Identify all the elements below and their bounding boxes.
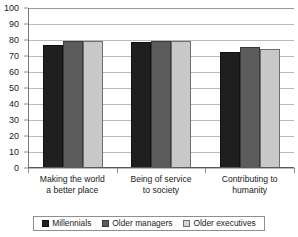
bar[interactable]	[151, 41, 171, 167]
legend-swatch-icon	[102, 220, 109, 227]
category-tick	[294, 168, 295, 173]
y-tick-label: 80	[9, 36, 19, 45]
bars-layer	[29, 8, 294, 167]
bar-group	[117, 8, 205, 167]
y-tick-label: 10	[9, 148, 19, 157]
legend-label: Millennials	[52, 219, 91, 228]
legend-label: Older managers	[112, 219, 172, 228]
bar-group	[206, 8, 294, 167]
category-tick	[117, 168, 118, 173]
y-tick-label: 20	[9, 132, 19, 141]
x-category-label-line: to society	[118, 185, 205, 196]
chart-legend: MillennialsOlder managersOlder executive…	[33, 216, 265, 231]
legend-item[interactable]: Older managers	[102, 219, 172, 228]
y-tick-label: 40	[9, 100, 19, 109]
legend-item[interactable]: Older executives	[183, 219, 255, 228]
y-tick-label: 50	[9, 84, 19, 93]
category-tick	[28, 168, 29, 173]
x-axis-labels: Making the worlda better placeBeing of s…	[28, 174, 294, 195]
plot-area	[28, 8, 294, 168]
legend-swatch-icon	[42, 220, 49, 227]
legend-item[interactable]: Millennials	[42, 219, 91, 228]
x-category-label-line: Contributing to	[206, 174, 293, 185]
x-category-label: Being of serviceto society	[117, 174, 206, 195]
legend-label: Older executives	[193, 219, 255, 228]
y-tick-label: 60	[9, 68, 19, 77]
x-category-label-line: Being of service	[118, 174, 205, 185]
legend-swatch-icon	[183, 220, 190, 227]
chart-title	[0, 0, 298, 5]
y-tick-label: 90	[9, 20, 19, 29]
x-category-label-line: Making the world	[29, 174, 116, 185]
bar[interactable]	[260, 49, 280, 167]
bar-group	[29, 8, 117, 167]
y-tick-label: 100	[4, 4, 19, 13]
plot-region: 1009080706050403020100 Making the worlda…	[0, 8, 298, 180]
bar[interactable]	[83, 41, 103, 167]
y-tick-label: 30	[9, 116, 19, 125]
bar[interactable]	[63, 41, 83, 167]
bar-chart-figure: 1009080706050403020100 Making the worlda…	[0, 0, 298, 237]
y-tick-label: 0	[14, 164, 19, 173]
bar[interactable]	[240, 47, 260, 167]
bar[interactable]	[220, 52, 240, 167]
bar[interactable]	[43, 45, 63, 167]
x-category-label-line: a better place	[29, 185, 116, 196]
y-tick-label: 70	[9, 52, 19, 61]
category-tick	[205, 168, 206, 173]
x-category-label-line: humanity	[206, 185, 293, 196]
x-category-label: Contributing tohumanity	[205, 174, 294, 195]
category-ticks	[28, 168, 294, 173]
bar[interactable]	[131, 42, 151, 167]
y-axis: 1009080706050403020100	[0, 8, 24, 180]
bar[interactable]	[171, 41, 191, 167]
x-category-label: Making the worlda better place	[28, 174, 117, 195]
